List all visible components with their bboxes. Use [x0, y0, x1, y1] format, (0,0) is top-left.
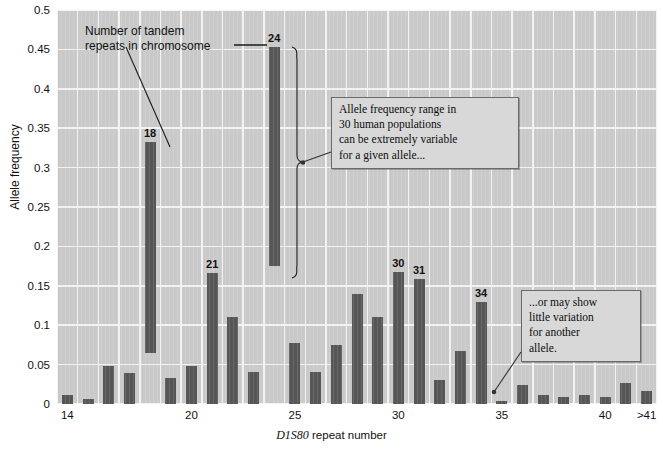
x-tick-30: 30: [392, 409, 405, 421]
bar-repeat-38: [558, 397, 569, 404]
tandem-repeats-note-line2: repeats in chromosome: [85, 39, 210, 54]
gridline-vertical: [656, 10, 657, 404]
bar-repeat-31: [414, 279, 425, 404]
x-axis-label-rest: repeat number: [309, 429, 387, 441]
gridline-vertical: [325, 10, 327, 404]
gridline-horizontal: [57, 88, 657, 90]
x-tick-35: 35: [495, 409, 508, 421]
bar-repeat-26: [310, 372, 321, 404]
gridline-vertical: [346, 10, 348, 404]
gridline-vertical: [263, 10, 265, 404]
callout-variable-line3: can be extremely variable: [339, 132, 511, 147]
callout-little-line4: allele.: [529, 341, 633, 356]
x-tick-gt41: >41: [637, 409, 657, 421]
y-tick-0.1: 0.1: [0, 319, 50, 331]
bar-repeat-32: [434, 380, 445, 404]
x-tick-25: 25: [289, 409, 302, 421]
gridline-vertical: [284, 10, 286, 404]
x-tick-20: 20: [185, 409, 198, 421]
bar-repeat-24: [269, 47, 280, 266]
bar-repeat-23: [248, 372, 259, 404]
bar-repeat-21: [207, 273, 218, 404]
tandem-repeats-note-line1: Number of tandem: [85, 24, 210, 39]
y-tick-0.05: 0.05: [0, 359, 50, 371]
y-tick-0.15: 0.15: [0, 280, 50, 292]
gridline-vertical: [511, 10, 513, 404]
callout-little-line3: for another: [529, 325, 633, 340]
bar-repeat-15: [83, 399, 94, 404]
gridline-vertical: [118, 10, 120, 404]
bar-repeat-30: [393, 272, 404, 404]
gridline-vertical: [180, 10, 182, 404]
gridline-vertical: [305, 10, 307, 404]
bar-repeat-14: [62, 395, 73, 404]
gridline-vertical: [242, 10, 244, 404]
bar-repeat-18: [145, 142, 156, 352]
y-tick-0.5: 0.5: [0, 4, 50, 16]
bar-value-label-30: 30: [392, 257, 404, 269]
bar-value-label-18: 18: [144, 127, 156, 139]
bar-repeat-16: [103, 366, 114, 404]
chart-root: 00.050.10.150.20.250.30.350.40.450.5 All…: [0, 0, 663, 452]
gridline-vertical: [160, 10, 162, 404]
gridline-vertical: [57, 10, 58, 404]
bar-repeat-17: [124, 373, 135, 404]
bar-value-label-24: 24: [268, 32, 280, 44]
x-tick-40: 40: [599, 409, 612, 421]
gridline-vertical: [491, 10, 493, 404]
bar-repeat-39: [579, 395, 590, 404]
y-axis-label: Allele frequency: [8, 67, 22, 267]
gridline-vertical: [408, 10, 410, 404]
bar-repeat-gt41: [641, 391, 652, 404]
bar-repeat-41: [620, 383, 631, 404]
gridline-vertical: [449, 10, 451, 404]
tandem-repeats-note: Number of tandem repeats in chromosome: [85, 24, 210, 54]
bar-repeat-27: [331, 345, 342, 404]
bar-repeat-34: [476, 302, 487, 404]
gridline-vertical: [367, 10, 369, 404]
bar-repeat-40: [600, 397, 611, 404]
x-axis-label-locus: D1S80: [276, 428, 309, 442]
bar-repeat-28: [352, 294, 363, 404]
callout-little-variation: ...or may show little variation for anot…: [521, 290, 641, 362]
gridline-vertical: [77, 10, 79, 404]
y-tick-0.45: 0.45: [0, 43, 50, 55]
gridline-vertical: [222, 10, 224, 404]
bar-repeat-20: [186, 366, 197, 404]
x-tick-14: 14: [61, 409, 74, 421]
bar-repeat-35: [496, 401, 507, 404]
bar-value-label-34: 34: [475, 287, 487, 299]
callout-variable-allele: Allele frequency range in 30 human popul…: [331, 97, 519, 169]
callout-little-line1: ...or may show: [529, 295, 633, 310]
bar-value-label-21: 21: [206, 258, 218, 270]
callout-variable-line2: 30 human populations: [339, 117, 511, 132]
gridline-vertical: [387, 10, 389, 404]
y-tick-0: 0: [0, 398, 50, 410]
gridline-vertical: [429, 10, 431, 404]
callout-little-line2: little variation: [529, 310, 633, 325]
bar-repeat-37: [538, 395, 549, 404]
bar-repeat-22: [227, 317, 238, 404]
x-axis-label: D1S80 repeat number: [0, 428, 663, 443]
bar-repeat-19: [165, 378, 176, 404]
gridline-vertical: [139, 10, 141, 404]
bar-repeat-36: [517, 385, 528, 404]
bar-repeat-29: [372, 317, 383, 404]
bar-value-label-31: 31: [413, 264, 425, 276]
callout-variable-line1: Allele frequency range in: [339, 102, 511, 117]
bar-repeat-33: [455, 351, 466, 404]
gridline-vertical: [98, 10, 100, 404]
gridline-vertical: [470, 10, 472, 404]
gridline-horizontal: [57, 10, 657, 11]
gridline-vertical: [201, 10, 203, 404]
callout-variable-line4: for a given allele...: [339, 148, 511, 163]
bar-repeat-25: [289, 343, 300, 404]
